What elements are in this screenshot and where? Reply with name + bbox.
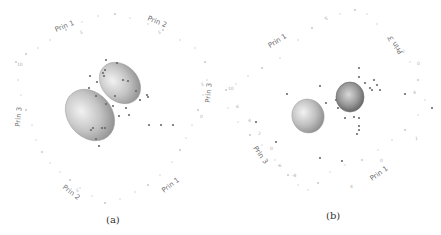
data-point — [356, 133, 358, 135]
frame-point — [119, 198, 120, 199]
data-point — [148, 124, 150, 126]
frame-point — [339, 13, 340, 14]
frame-point — [417, 79, 418, 80]
data-point — [358, 125, 360, 127]
data-point — [344, 117, 346, 119]
axis-label-prin2-bottom: Prin 2 — [61, 183, 82, 202]
tick-label: -8 — [292, 173, 297, 178]
data-point — [104, 69, 106, 71]
axis-label-prin3-right: Prin 3 — [387, 34, 405, 55]
tick-label: 5 — [80, 30, 83, 35]
data-point — [128, 114, 130, 116]
tick-label: 2 — [258, 131, 261, 136]
data-point — [335, 99, 337, 101]
data-point — [146, 94, 148, 96]
scatter-3d-a: 1055505 Prin 1 Prin 2 Prin 3 Prin 3 Prin… — [0, 0, 220, 235]
frame-point — [134, 191, 135, 192]
tick-label: 5 — [325, 16, 328, 21]
data-point — [319, 157, 321, 159]
frame-point — [129, 17, 130, 18]
frame-point — [206, 79, 207, 80]
data-point — [358, 76, 360, 78]
axis-frame — [225, 9, 425, 190]
tick-label: 4 — [248, 118, 251, 123]
frame-point — [25, 109, 26, 110]
data-point — [125, 107, 127, 109]
data-point — [373, 79, 375, 81]
frame-point — [287, 174, 288, 175]
frame-point — [31, 124, 32, 125]
data-point — [369, 87, 371, 89]
tick-label: 0 — [200, 114, 203, 119]
frame-point — [17, 79, 18, 80]
data-point — [379, 89, 381, 91]
data-point — [88, 87, 90, 89]
panel-a: 1055505 Prin 1 Prin 2 Prin 3 Prin 3 Prin… — [0, 0, 220, 235]
axis-label-prin1-top: Prin 1 — [267, 32, 288, 49]
data-point — [255, 121, 257, 123]
data-point — [90, 129, 92, 131]
frame-point — [237, 121, 238, 122]
data-point — [102, 72, 104, 74]
data-point — [358, 129, 360, 131]
frame-point — [147, 184, 148, 185]
tick-label: 0 — [380, 158, 383, 163]
frame-point — [417, 114, 418, 115]
frame-point — [114, 13, 115, 14]
data-point — [404, 93, 406, 95]
axis-label-prin1-bottom: Prin 1 — [160, 176, 181, 195]
frame-point — [247, 75, 248, 76]
frame-point — [25, 53, 26, 54]
frame-point — [97, 15, 98, 16]
axis-label-prin2-top: Prin 2 — [146, 14, 168, 29]
frame-point — [59, 171, 60, 172]
data-point — [114, 95, 116, 97]
tick-label: 6 — [236, 104, 239, 109]
data-point — [172, 124, 174, 126]
frame-point — [227, 107, 228, 108]
frame-point — [261, 67, 262, 68]
data-point — [371, 89, 373, 91]
frame-point — [159, 174, 160, 175]
frame-point — [147, 23, 148, 24]
ellipsoid-group-2 — [336, 82, 364, 112]
frame-point — [225, 89, 226, 90]
data-point — [98, 145, 100, 147]
data-point — [147, 96, 149, 98]
tick-label: 5 — [201, 82, 204, 87]
frame-point — [194, 47, 195, 48]
tick-label: 1 — [415, 136, 418, 141]
tick-label: 10 — [17, 62, 23, 67]
tick-label: 4 — [350, 184, 353, 189]
data-point — [275, 141, 277, 143]
frame-point — [344, 164, 345, 165]
frame-point — [179, 149, 180, 150]
frame-point — [354, 9, 355, 10]
data-point — [105, 103, 107, 105]
frame-point — [37, 47, 38, 48]
data-point — [135, 90, 137, 92]
frame-point — [311, 27, 312, 28]
frame-point — [35, 139, 36, 140]
frame-point — [409, 61, 410, 62]
data-point — [160, 124, 162, 126]
data-point — [118, 115, 120, 117]
data-point — [319, 85, 321, 87]
ellipsoid-group-1 — [287, 95, 329, 138]
tick-label: 10 — [228, 86, 234, 91]
data-point — [112, 105, 114, 107]
tick-label: -6 — [277, 163, 282, 168]
data-point — [376, 84, 378, 86]
axis-label-prin3-left: Prin 3 — [251, 145, 269, 166]
frame-point — [261, 144, 262, 145]
frame-point — [424, 99, 425, 100]
data-point — [353, 116, 355, 118]
frame-point — [366, 13, 367, 14]
caption-b: (b) — [326, 210, 340, 221]
axis-label-prin1-bottom: Prin 1 — [369, 165, 390, 183]
data-point — [364, 82, 366, 84]
panel-b: 106420502410-6-84 Prin 1 Prin 3 Prin 3 P… — [220, 0, 441, 235]
data-point — [95, 95, 97, 97]
data-point — [325, 102, 327, 104]
axis-label-prin3-left: Prin 3 — [14, 107, 24, 128]
